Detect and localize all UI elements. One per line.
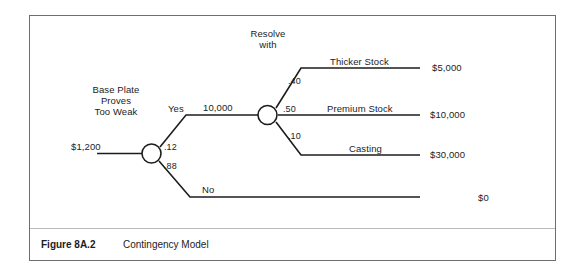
root-value-label: $1,200: [71, 141, 101, 153]
no-branch-label: No: [202, 184, 214, 196]
payoff-premium-stock: $10,000: [430, 109, 465, 121]
caption-separator: [30, 228, 555, 229]
yes-probability-label: .12: [164, 142, 177, 154]
decision-question-line3: Too Weak: [75, 106, 157, 118]
outcome-probability-premium-stock: .50: [283, 104, 296, 116]
yes-branch-label: Yes: [168, 103, 184, 115]
thicker-stock-branch-line: [276, 68, 420, 108]
decision-question-line2: Proves: [75, 95, 157, 107]
figure-container: $1,200 Base Plate Proves Too Weak Yes 10…: [0, 0, 586, 277]
no-probability-label: .88: [164, 161, 177, 173]
payoff-thicker-stock: $5,000: [432, 62, 462, 74]
payoff-no-branch: $0: [478, 192, 489, 204]
caption-row: Figure 8A.2 Contingency Model: [41, 239, 541, 253]
decision-question-line1: Base Plate: [75, 84, 157, 96]
no-branch-line: [159, 161, 420, 197]
outcome-probability-thicker-stock: .40: [288, 76, 301, 88]
decision-node-circle: [142, 144, 161, 163]
outcome-name-premium-stock: Premium Stock: [327, 103, 393, 115]
outcome-probability-casting: .10: [288, 131, 301, 143]
outcome-name-casting: Casting: [349, 143, 382, 155]
chance-node-circle: [258, 106, 277, 125]
yes-branch-value-label: 10,000: [203, 102, 233, 114]
payoff-casting: $30,000: [430, 149, 465, 161]
figure-number-label: Figure 8A.2: [41, 239, 95, 250]
outcome-name-thicker-stock: Thicker Stock: [330, 56, 389, 68]
chance-node-label-line2: with: [232, 39, 304, 51]
chance-node-label-line1: Resolve: [232, 28, 304, 40]
figure-title-label: Contingency Model: [123, 239, 209, 250]
